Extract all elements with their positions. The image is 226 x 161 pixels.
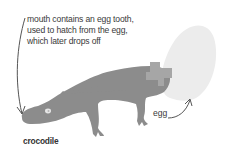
crocodile-label: crocodile — [23, 136, 58, 146]
egg-tooth-annotation: mouth contains an egg tooth, used to hat… — [27, 14, 134, 47]
crocodile-pupil — [48, 110, 50, 112]
egg-label: egg — [153, 108, 167, 118]
annotation-line: which later drops off — [27, 36, 134, 47]
annotation-line: mouth contains an egg tooth, — [27, 14, 134, 25]
crocodile-hatching-diagram: mouth contains an egg tooth, used to hat… — [0, 0, 226, 161]
annotation-line: used to hatch from the egg, — [27, 25, 134, 36]
egg-shape — [161, 25, 216, 100]
annotation-arrow-line — [17, 18, 25, 114]
